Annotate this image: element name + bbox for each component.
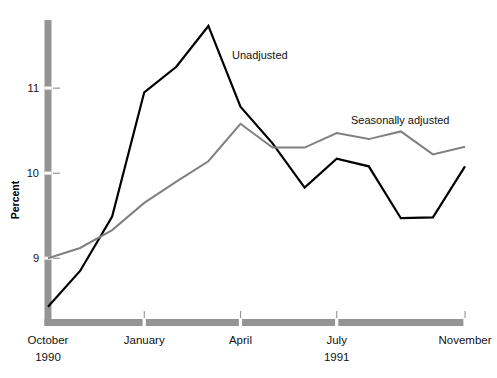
y-tick-notch (45, 87, 52, 90)
x-tick-mark (465, 311, 466, 318)
y-tick-mark (53, 88, 60, 89)
line-chart: 91011 Percent OctoberJanuaryAprilJulyNov… (0, 0, 497, 378)
y-tick-label: 10 (27, 167, 39, 179)
x-tick-mark (144, 311, 145, 318)
series-lines (48, 26, 465, 307)
x-axis-year-label: 1990 (35, 351, 61, 363)
x-axis-year-label: 1991 (324, 351, 350, 363)
y-tick-label: 11 (28, 82, 39, 94)
series-line-seasonally-adjusted (48, 124, 465, 258)
series-annotation: Seasonally adjusted (351, 114, 449, 126)
x-tick-notch (335, 319, 338, 326)
x-tick-notch (239, 319, 242, 326)
y-tick-label: 9 (33, 252, 39, 264)
chart-container: 91011 Percent OctoberJanuaryAprilJulyNov… (0, 0, 497, 378)
y-tick-mark (53, 173, 60, 174)
series-line-unadjusted (48, 26, 465, 307)
x-tick-mark (336, 311, 337, 318)
y-axis-tick-labels: 91011 (27, 82, 39, 264)
y-tick-mark (53, 258, 60, 259)
x-tick-mark (240, 311, 241, 318)
series-annotations: UnadjustedSeasonally adjusted (232, 49, 449, 126)
x-axis-bar (45, 319, 466, 326)
series-annotation: Unadjusted (232, 49, 288, 61)
y-axis-title: Percent (9, 180, 21, 219)
x-axis-tick-labels: OctoberJanuaryAprilJulyNovember (28, 334, 492, 346)
x-tick-label: April (229, 334, 252, 346)
x-tick-label: November (438, 334, 491, 346)
x-tick-notch (143, 319, 146, 326)
x-axis-year-labels: 19901991 (35, 351, 349, 363)
y-tick-notch (45, 172, 52, 175)
x-tick-notch (463, 319, 466, 326)
x-tick-label: October (28, 334, 69, 346)
x-tick-label: January (124, 334, 165, 346)
x-tick-label: July (326, 334, 347, 346)
